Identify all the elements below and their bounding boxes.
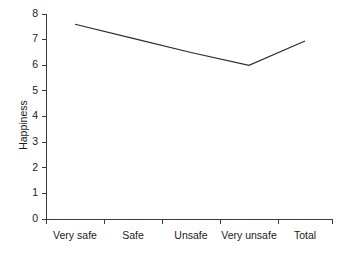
y-tick-label: 3 <box>32 135 38 147</box>
y-tick-label: 8 <box>32 7 38 19</box>
y-tick-label: 7 <box>32 32 38 44</box>
y-tick-label: 1 <box>32 186 38 198</box>
y-tick-label: 6 <box>32 58 38 70</box>
chart-background <box>0 0 348 256</box>
y-tick-label: 5 <box>32 84 38 96</box>
y-tick-label: 4 <box>32 109 38 121</box>
y-axis-label: Happiness <box>17 100 29 150</box>
line-chart-figure: Happiness 8 7 6 5 4 3 2 1 0 <box>0 0 348 256</box>
x-category-label-very-safe: Very safe <box>53 229 97 241</box>
x-category-label-very-unsafe: Very unsafe <box>221 229 277 241</box>
x-category-label-unsafe: Unsafe <box>174 229 207 241</box>
x-category-label-total: Total <box>294 229 316 241</box>
x-axis-category-labels: Very safe Safe Unsafe Very unsafe Total <box>53 229 316 241</box>
y-tick-label: 0 <box>32 212 38 224</box>
x-category-label-safe: Safe <box>122 229 144 241</box>
chart-canvas: Happiness 8 7 6 5 4 3 2 1 0 <box>0 0 348 256</box>
y-tick-label: 2 <box>32 161 38 173</box>
